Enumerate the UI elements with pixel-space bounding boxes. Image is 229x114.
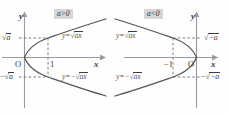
- right-case-badge: a<0: [144, 9, 163, 19]
- right-origin-label: O: [188, 60, 194, 69]
- left-y-tick-upper: √a: [2, 33, 11, 42]
- right-equation-upper: y=√ax: [116, 31, 137, 40]
- left-equation-upper: y=√ax: [62, 31, 83, 40]
- radicand: ax: [128, 31, 137, 40]
- right-equation-lower: y=−√ax: [116, 72, 142, 81]
- radicand: ax: [79, 72, 88, 81]
- radicand: −a: [209, 72, 220, 81]
- right-x-tick-minus1: −1: [164, 60, 173, 69]
- left-y-tick-lower: −√a: [0, 72, 14, 81]
- right-y-tick-upper: √−a: [204, 33, 219, 42]
- radicand: ax: [74, 31, 83, 40]
- left-case-badge: a>0: [54, 9, 73, 19]
- radicand: ax: [133, 72, 142, 81]
- left-equation-lower: y=−√ax: [62, 72, 88, 81]
- right-y-tick-lower: −√−a: [201, 72, 220, 81]
- figure-root: y x O 1 √a −√a y=√ax y=−√ax a>0 y x O −1…: [0, 0, 229, 114]
- right-x-axis-label: x: [211, 60, 216, 69]
- left-x-tick-1: 1: [50, 60, 54, 69]
- left-origin-label: O: [15, 60, 21, 69]
- left-y-axis-label: y: [19, 12, 23, 21]
- radicand: a: [6, 33, 12, 42]
- radicand: a: [8, 72, 14, 81]
- left-x-axis-label: x: [94, 60, 99, 69]
- radicand: −a: [208, 33, 219, 42]
- right-y-axis-label: y: [191, 12, 195, 21]
